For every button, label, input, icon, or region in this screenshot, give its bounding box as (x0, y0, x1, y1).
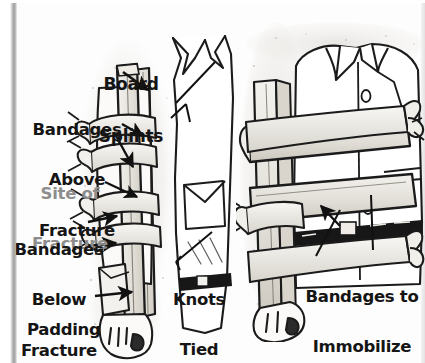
leader-immobilize-1 (316, 210, 340, 256)
label-padding: Padding (27, 288, 107, 363)
label-immobilize-line-1: Bandages to (302, 289, 422, 306)
label-knots-line-2: Tied (160, 342, 238, 359)
label-knots-tied-against-board: Knots Tied Against Board (160, 258, 238, 363)
label-bandages-to-immobilize-arm: Bandages to Immobilize Arm (302, 255, 422, 363)
figure-canvas: Board Splints Bandages Above Fracture Si… (0, 0, 425, 363)
label-immobilize-line-2: Immobilize (302, 339, 422, 356)
label-bandages-below-line-1: Bandages (4, 242, 114, 259)
leader-board-splints-right (176, 62, 215, 103)
label-knots-line-1: Knots (160, 292, 238, 309)
label-bandages-above-line-1: Bandages (22, 122, 132, 139)
label-padding-line-1: Padding (27, 322, 107, 339)
leader-immobilize-2 (371, 195, 373, 250)
label-site-of-fracture-line-1: Site of (20, 186, 120, 203)
